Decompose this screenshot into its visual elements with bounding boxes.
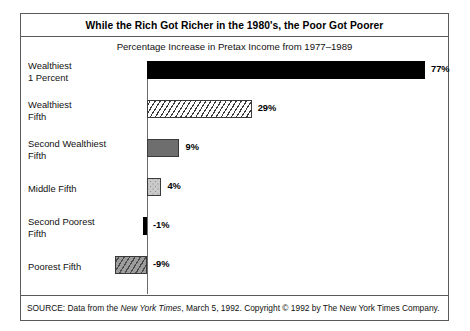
- bar: [147, 61, 425, 79]
- chart-title-band: While the Rich Got Richer in the 1980's,…: [21, 14, 448, 37]
- category-label-line2: Fifth: [28, 228, 46, 239]
- category-label: Middle Fifth: [28, 183, 143, 196]
- bar-row: Poorest Fifth-9%: [21, 254, 448, 293]
- chart-figure: While the Rich Got Richer in the 1980's,…: [20, 13, 449, 321]
- category-label-line1: Wealthiest: [28, 60, 72, 71]
- bar: [147, 139, 179, 157]
- bar: [147, 100, 252, 118]
- category-label-line1: Wealthiest: [28, 99, 72, 110]
- source-publication: New York Times: [121, 303, 182, 313]
- chart-source-band: SOURCE: Data from the New York Times, Ma…: [21, 295, 448, 320]
- source-suffix: , March 5, 1992. Copyright © 1992 by The…: [181, 303, 439, 313]
- bar-row: Wealthiest1 Percent77%: [21, 59, 448, 98]
- category-label-line1: Second Poorest: [28, 216, 95, 227]
- bar-value-label: 4%: [167, 182, 180, 191]
- bar: [143, 217, 147, 235]
- category-label-line2: 1 Percent: [28, 72, 68, 83]
- category-label: Wealthiest1 Percent: [28, 60, 143, 85]
- category-label: WealthiestFifth: [28, 99, 143, 124]
- chart-subtitle: Percentage Increase in Pretax Income fro…: [21, 41, 448, 52]
- category-label-line2: Fifth: [28, 111, 46, 122]
- bar-value-label: 29%: [258, 104, 277, 113]
- bar-row: Middle Fifth4%: [21, 176, 448, 215]
- chart-plot-area: Wealthiest1 Percent77%WealthiestFifth29%…: [21, 59, 448, 296]
- bar-row: Second PoorestFifth-1%: [21, 215, 448, 254]
- category-label-line1: Second Wealthiest: [28, 138, 106, 149]
- bar: [147, 178, 161, 196]
- bar: [115, 256, 147, 274]
- bar-value-label: -1%: [153, 221, 170, 230]
- category-label: Second WealthiestFifth: [28, 138, 143, 163]
- bar-value-label: 9%: [185, 143, 198, 152]
- category-label-line1: Poorest Fifth: [28, 261, 81, 272]
- source-note: SOURCE: Data from the New York Times, Ma…: [21, 303, 439, 313]
- source-prefix: SOURCE: Data from the: [27, 303, 121, 313]
- bar-value-label: -9%: [153, 260, 170, 269]
- bar-row: Second WealthiestFifth9%: [21, 137, 448, 176]
- chart-title: While the Rich Got Richer in the 1980's,…: [86, 20, 384, 31]
- bar-row: WealthiestFifth29%: [21, 98, 448, 137]
- category-label-line1: Middle Fifth: [28, 183, 76, 194]
- category-label: Second PoorestFifth: [28, 216, 143, 241]
- category-label-line2: Fifth: [28, 150, 46, 161]
- bar-value-label: 77%: [431, 65, 450, 74]
